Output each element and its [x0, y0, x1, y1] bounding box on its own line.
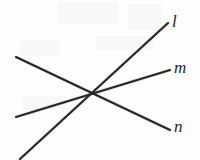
line-label-n: n — [174, 118, 183, 135]
line-n — [16, 57, 170, 130]
lines-canvas — [0, 0, 200, 160]
line-label-m: m — [174, 59, 186, 76]
line-group-l — [20, 23, 168, 159]
line-group-n — [16, 57, 170, 130]
line-l — [20, 23, 168, 159]
geometry-figure: l m n — [0, 0, 200, 160]
line-label-l: l — [172, 13, 177, 30]
